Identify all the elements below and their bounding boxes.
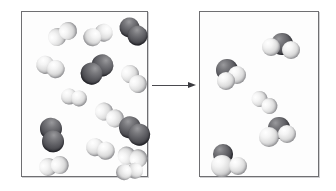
triatomic-molecule <box>262 29 300 59</box>
arrow-head <box>188 82 196 88</box>
light-diatomic <box>45 15 81 52</box>
light-diatomic <box>116 163 144 181</box>
product-panel <box>199 11 319 177</box>
triatomic-molecule <box>214 57 246 90</box>
light-diatomic <box>249 86 281 120</box>
arrow-shaft <box>152 85 190 86</box>
light-diatomic <box>36 148 73 184</box>
reaction-arrow-icon <box>152 82 196 89</box>
light-diatomic <box>119 61 150 97</box>
triatomic-molecule <box>258 116 296 147</box>
light-atom <box>282 41 300 59</box>
light-atom <box>278 125 296 143</box>
light-diatomic <box>60 88 87 107</box>
light-atom <box>229 157 247 175</box>
dark-diatomic <box>114 14 152 49</box>
light-atom <box>259 127 279 147</box>
light-atom <box>96 141 116 161</box>
light-diatomic <box>81 22 115 48</box>
light-atom <box>116 164 133 181</box>
triatomic-molecule <box>210 144 247 177</box>
light-diatomic <box>34 54 67 80</box>
light-diatomic <box>85 137 117 161</box>
reaction-figure <box>0 0 336 191</box>
light-atom <box>217 72 235 90</box>
dark-diatomic <box>76 51 118 87</box>
reactant-panel <box>21 11 148 177</box>
light-atom <box>70 90 87 107</box>
light-atom <box>262 38 280 56</box>
